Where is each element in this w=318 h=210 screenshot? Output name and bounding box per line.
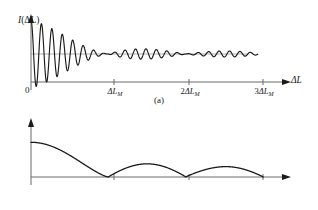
- x-axis-a: [31, 79, 291, 85]
- visibility-curve: [31, 142, 263, 177]
- y-axis-b: [28, 118, 34, 185]
- panel-caption-a: (a): [0, 96, 318, 105]
- origin-label-a: 0: [25, 86, 30, 95]
- panel-b: γ(ΔL) ΔL 0 ΔLM 2ΔLM 3ΔLM (b): [0, 105, 318, 210]
- x-axis-label-a: ΔL: [291, 76, 302, 86]
- intensity-curve: [31, 20, 258, 86]
- x-axis-b: [31, 174, 291, 180]
- panel-a: I(ΔL) ΔL 0 ΔLM 2ΔLM 3ΔLM (a): [0, 0, 318, 105]
- y-axis-label-a: I(ΔL): [18, 16, 39, 26]
- figure-root: I(ΔL) ΔL 0 ΔLM 2ΔLM 3ΔLM (a) γ(ΔL): [0, 0, 318, 210]
- visibility-plot: [0, 105, 318, 210]
